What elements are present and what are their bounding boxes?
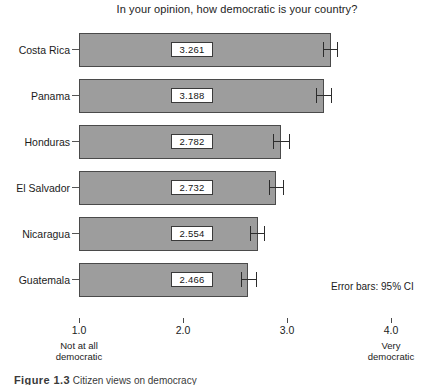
- error-bar-line: [273, 141, 290, 142]
- bar-row: Honduras2.782: [0, 125, 438, 159]
- figure-caption-text: Citizen views on democracy: [73, 375, 197, 385]
- error-bar-cap-lower: [250, 226, 251, 241]
- bar-value-label: 2.466: [171, 272, 213, 287]
- category-label: Guatemala: [0, 263, 70, 297]
- bar: [79, 263, 248, 297]
- bar-row: Panama3.188: [0, 79, 438, 113]
- bar-row: El Salvador2.732: [0, 171, 438, 205]
- bar-value-label: 3.188: [171, 88, 213, 103]
- category-tick: [72, 95, 79, 96]
- error-bar-cap-upper: [331, 88, 332, 103]
- scale-anchor-low: Not at alldemocratic: [34, 340, 124, 362]
- error-bars-note: Error bars: 95% CI: [331, 281, 414, 292]
- scale-anchor-line2: democratic: [34, 351, 124, 362]
- x-axis-tick-label: 1.0: [49, 324, 109, 336]
- error-bar-cap-lower: [269, 180, 270, 195]
- error-bar-line: [269, 187, 284, 188]
- category-tick: [72, 279, 79, 280]
- error-bar-cap-upper: [337, 42, 338, 57]
- error-bar-cap-upper: [264, 226, 265, 241]
- figure-caption: Figure 1.3 Citizen views on democracy: [14, 374, 434, 385]
- bar-value-label: 2.782: [171, 134, 213, 149]
- x-axis-tick-label: 3.0: [257, 324, 317, 336]
- x-axis-tick: [391, 318, 392, 323]
- category-tick: [72, 187, 79, 188]
- category-label: El Salvador: [0, 171, 70, 205]
- bar-value-label: 3.261: [171, 42, 213, 57]
- scale-anchor-line1: Very: [346, 340, 436, 351]
- error-bar-line: [241, 279, 257, 280]
- category-tick: [72, 233, 79, 234]
- category-label: Panama: [0, 79, 70, 113]
- x-axis-tick-label: 4.0: [361, 324, 421, 336]
- error-bar-cap-lower: [316, 88, 317, 103]
- scale-anchor-line1: Not at all: [34, 340, 124, 351]
- scale-anchor-high: Verydemocratic: [346, 340, 436, 362]
- scale-anchor-line2: democratic: [346, 351, 436, 362]
- x-axis-tick: [287, 318, 288, 323]
- category-tick: [72, 49, 79, 50]
- category-tick: [72, 141, 79, 142]
- error-bar-cap-upper: [256, 272, 257, 287]
- bar-row: Costa Rica3.261: [0, 33, 438, 67]
- error-bar-cap-lower: [241, 272, 242, 287]
- bar-value-label: 2.554: [171, 226, 213, 241]
- error-bar-cap-lower: [273, 134, 274, 149]
- bar: [79, 217, 258, 251]
- x-axis-tick-label: 2.0: [153, 324, 213, 336]
- error-bar-line: [250, 233, 265, 234]
- x-axis-tick: [183, 318, 184, 323]
- category-label: Nicaragua: [0, 217, 70, 251]
- error-bar-line: [316, 95, 331, 96]
- category-label: Costa Rica: [0, 33, 70, 67]
- error-bar-cap-lower: [323, 42, 324, 57]
- x-axis-tick: [79, 318, 80, 323]
- error-bar-cap-upper: [289, 134, 290, 149]
- category-label: Honduras: [0, 125, 70, 159]
- error-bar-cap-upper: [283, 180, 284, 195]
- figure-number: Figure 1.3: [14, 374, 70, 385]
- error-bar-line: [323, 49, 338, 50]
- bar-value-label: 2.732: [171, 180, 213, 195]
- bar-row: Nicaragua2.554: [0, 217, 438, 251]
